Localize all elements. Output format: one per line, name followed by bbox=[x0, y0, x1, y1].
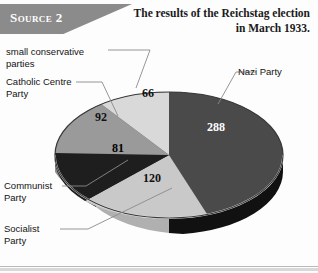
footer-rule bbox=[0, 266, 318, 267]
label-nazi-party: Nazi Party bbox=[238, 66, 314, 78]
pie-value-nazi: 288 bbox=[207, 120, 225, 134]
pie-value-communist: 81 bbox=[112, 141, 124, 155]
pie-value-conservative: 66 bbox=[142, 86, 154, 100]
source-figure: Source 2 The results of the Reichstag el… bbox=[0, 0, 318, 273]
label-communist-party: Communist Party bbox=[4, 180, 78, 203]
pie-value-catholic: 92 bbox=[95, 110, 107, 124]
label-small-conservative-parties: small conservative parties bbox=[6, 46, 110, 69]
label-catholic-centre-party: Catholic Centre Party bbox=[6, 76, 84, 99]
pie-value-socialist: 120 bbox=[143, 171, 161, 185]
leader-line-nazi-2 bbox=[218, 72, 236, 104]
label-socialist-party: Socialist Party bbox=[4, 223, 78, 246]
footer-rule-thick bbox=[0, 268, 318, 271]
leader-line-conservative-2 bbox=[136, 50, 150, 88]
